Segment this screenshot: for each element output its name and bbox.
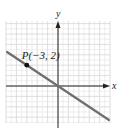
x-axis-arrow-icon: [103, 84, 110, 89]
y-axis-label: y: [55, 8, 61, 19]
point-p: [24, 63, 29, 68]
x-axis-label: x: [111, 80, 117, 91]
coordinate-plane: P(−3, 2) x y: [0, 0, 119, 136]
y-axis-arrow-icon: [56, 21, 61, 28]
point-p-label: P(−3, 2): [21, 49, 60, 62]
